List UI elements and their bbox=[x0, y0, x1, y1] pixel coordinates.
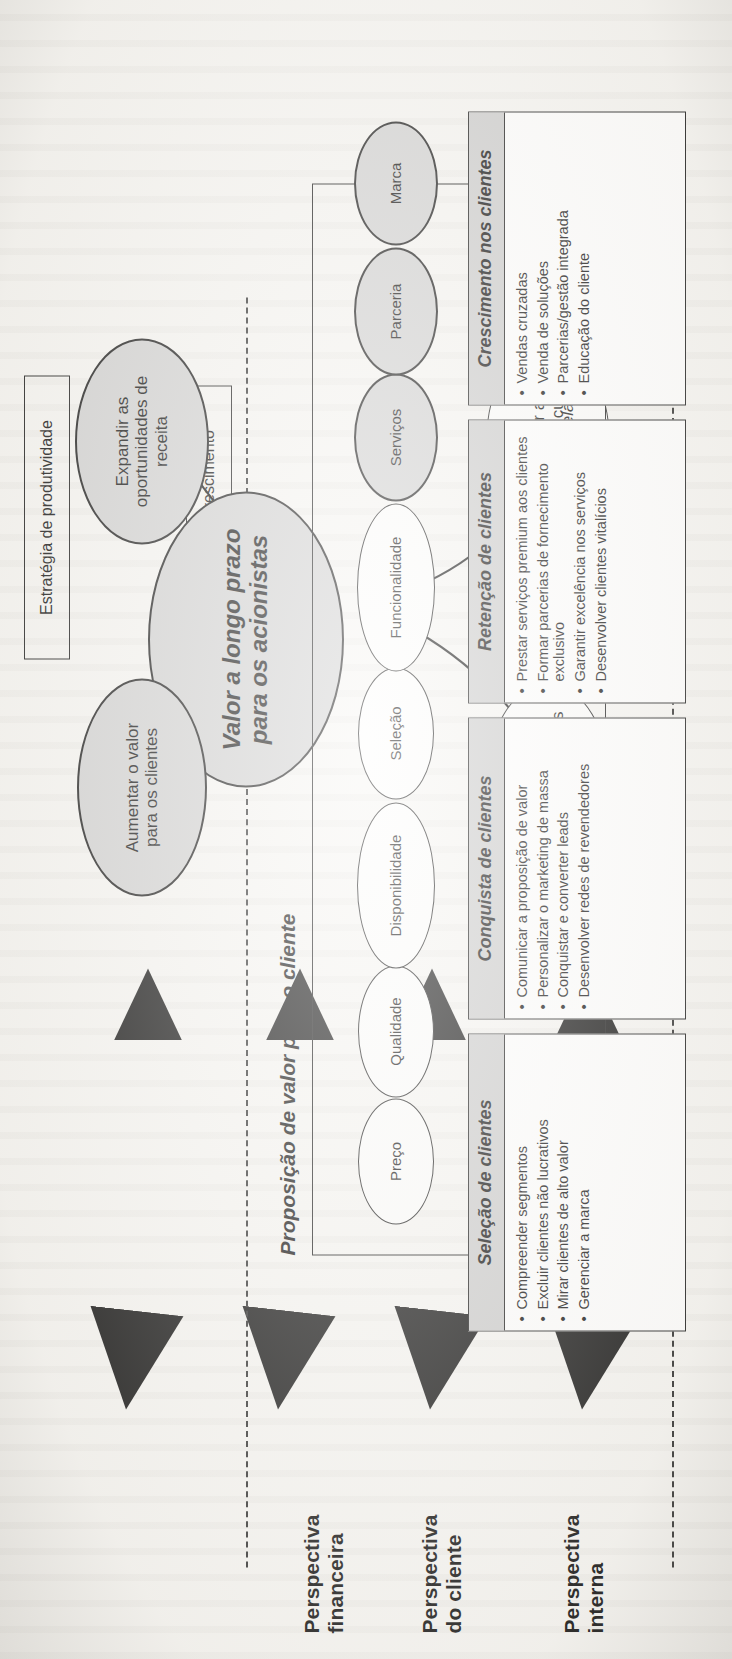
divider-financeira-cliente bbox=[246, 297, 248, 1567]
objective-aumentar-valor-clientes: Aumentar o valor para os clientes bbox=[77, 678, 207, 896]
list-item: Prestar serviços premium aos clientes bbox=[514, 428, 531, 693]
perspective-financeira-line1: Perspectiva bbox=[300, 1514, 324, 1633]
objective-expandir-line2: oportunidades de bbox=[132, 375, 151, 506]
process-box-selecao-de-clientes: Seleção de clientes Compreender segmento… bbox=[468, 1033, 686, 1331]
list-item: Desenvolver redes de revendedores bbox=[576, 726, 593, 1009]
value-item-qualidade: Qualidade bbox=[358, 965, 434, 1097]
value-item-servicos: Serviços bbox=[354, 373, 438, 501]
value-item-selecao: Seleção bbox=[358, 667, 434, 799]
objective-expandir-line1: Expandir as bbox=[113, 396, 132, 486]
perspective-cliente-line2: do cliente bbox=[442, 1514, 466, 1633]
objective-valor-line2: para os acionistas bbox=[245, 534, 272, 743]
list-item: Garantir excelência nos serviços bbox=[572, 428, 589, 693]
value-proposition-title: Proposição de valor para o cliente bbox=[276, 913, 300, 1255]
strategy-map: Perspectiva financeira Perspectiva do cl… bbox=[0, 0, 732, 1659]
process-box-conquista-de-clientes: Conquista de clientes Comunicar a propos… bbox=[468, 717, 686, 1019]
perspective-label-cliente: Perspectiva do cliente bbox=[418, 1514, 465, 1633]
value-item-disponibilidade-label: Disponibilidade bbox=[388, 828, 405, 942]
process-box-crescimento-nos-clientes: Crescimento nos clientes Vendas cruzadas… bbox=[468, 111, 686, 405]
value-item-qualidade-label: Qualidade bbox=[388, 991, 405, 1071]
process-title-conquista: Conquista de clientes bbox=[469, 718, 505, 1018]
value-item-funcionalidade: Funcionalidade bbox=[357, 503, 435, 671]
value-item-preco-label: Preço bbox=[388, 1135, 405, 1186]
strategy-box-produtividade-label: Estratégia de produtividade bbox=[38, 420, 56, 615]
process-bullets-crescimento: Vendas cruzadas Venda de soluções Parcer… bbox=[505, 112, 603, 404]
list-item: Excluir clientes não lucrativos bbox=[535, 1042, 552, 1321]
objective-valor-clientes-line2: para os clientes bbox=[142, 727, 161, 846]
value-item-preco: Preço bbox=[358, 1098, 434, 1224]
process-title-crescimento: Crescimento nos clientes bbox=[469, 112, 505, 404]
value-item-disponibilidade: Disponibilidade bbox=[357, 802, 435, 968]
list-item: Comunicar a proposição de valor bbox=[514, 726, 531, 1009]
value-item-funcionalidade-label: Funcionalidade bbox=[388, 530, 405, 644]
perspective-interna-line2: interna bbox=[584, 1514, 608, 1633]
perspective-financeira-line2: financeira bbox=[324, 1514, 348, 1633]
page-canvas: Perspectiva financeira Perspectiva do cl… bbox=[0, 0, 732, 1659]
list-item: Educação do cliente bbox=[576, 120, 593, 395]
strategy-box-produtividade: Estratégia de produtividade bbox=[24, 375, 70, 659]
value-item-selecao-label: Seleção bbox=[388, 700, 405, 766]
process-bullets-selecao: Compreender segmentos Excluir clientes n… bbox=[505, 1034, 603, 1330]
perspective-cliente-line1: Perspectiva bbox=[418, 1514, 442, 1633]
list-item: Gerenciar a marca bbox=[576, 1042, 593, 1321]
objective-valor-line1: Valor a longo prazo bbox=[218, 528, 245, 750]
value-item-parceria: Parceria bbox=[354, 247, 438, 375]
objective-valor-clientes-line1: Aumentar o valor bbox=[123, 722, 142, 851]
perspective-label-interna: Perspectiva interna bbox=[560, 1514, 607, 1633]
process-bullets-retencao: Prestar serviços premium aos clientes Fo… bbox=[505, 420, 620, 702]
process-bullets-conquista: Comunicar a proposição de valor Personal… bbox=[505, 718, 603, 1018]
process-title-selecao: Seleção de clientes bbox=[469, 1034, 505, 1330]
objective-expandir-oportunidades-receita: Expandir as oportunidades de receita bbox=[75, 338, 209, 544]
objective-expandir-line3: receita bbox=[152, 416, 171, 467]
list-item: Venda de soluções bbox=[535, 120, 552, 395]
list-item: Compreender segmentos bbox=[514, 1042, 531, 1321]
process-title-retencao: Retenção de clientes bbox=[469, 420, 505, 702]
rotated-diagram-wrapper: Perspectiva financeira Perspectiva do cl… bbox=[0, 0, 732, 1659]
value-item-parceria-label: Parceria bbox=[388, 277, 405, 345]
perspective-interna-line1: Perspectiva bbox=[560, 1514, 584, 1633]
list-item: Desenvolver clientes vitalícios bbox=[593, 428, 610, 693]
process-box-retencao-de-clientes: Retenção de clientes Prestar serviços pr… bbox=[468, 419, 686, 703]
list-item: Personalizar o marketing de massa bbox=[535, 726, 552, 1009]
list-item: Formar parcerias de fornecimento exclusi… bbox=[535, 428, 569, 693]
perspective-label-financeira: Perspectiva financeira bbox=[300, 1514, 347, 1633]
list-item: Parcerias/gestão integrada bbox=[555, 120, 572, 395]
list-item: Conquistar e converter leads bbox=[555, 726, 572, 1009]
list-item: Mirar clientes de alto valor bbox=[555, 1042, 572, 1321]
value-item-marca: Marca bbox=[354, 121, 438, 245]
list-item: Vendas cruzadas bbox=[514, 120, 531, 395]
value-item-servicos-label: Serviços bbox=[388, 402, 405, 472]
value-item-marca-label: Marca bbox=[388, 156, 405, 210]
